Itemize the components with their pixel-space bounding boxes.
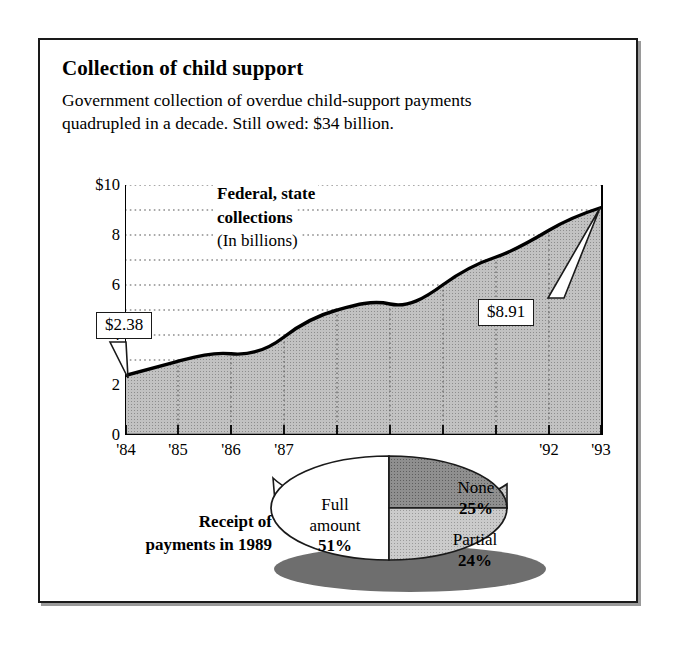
subtitle-line-1: Government collection of overdue child-s… [62,90,472,110]
pie-label-full-line-2: amount [292,516,378,537]
chart-title-units: (In billions) [214,229,318,253]
pie-label-partial-line-1: Partial [432,530,518,551]
pie-label-partial-pct: 24% [432,551,518,572]
figure-title: Collection of child support [62,56,303,81]
y-tick-6: 6 [80,277,120,294]
pie-label-full-amount: Full amount 51% [292,495,378,557]
pie-caption: Receipt of payments in 1989 [112,510,272,556]
x-tick-85: '85 [157,440,199,460]
subtitle-line-2: quadrupled in a decade. Still owed: $34 … [62,112,602,135]
pie-label-none: None 25% [440,478,512,519]
figure-subtitle: Government collection of overdue child-s… [62,89,602,135]
x-tick-93: '93 [580,440,622,460]
y-tick-10: $10 [80,177,120,194]
y-axis-labels: $10 8 6 4 2 0 [76,185,120,435]
pie-label-full-line-1: Full [292,495,378,516]
pie-label-partial: Partial 24% [432,530,518,571]
pie-label-none-pct: 25% [440,499,512,520]
pie-caption-line-2: payments in 1989 [112,533,272,556]
chart-inner-title: Federal, state collections (In billions) [214,182,318,253]
x-tick-84: '84 [105,440,147,460]
y-tick-8: 8 [80,227,120,244]
chart-title-line-1: Federal, state [214,182,318,206]
x-tick-86: '86 [210,440,252,460]
figure-frame: Collection of child support Government c… [38,38,638,603]
callout-start-value: $2.38 [96,312,152,339]
pie-label-full-pct: 51% [292,536,378,557]
chart-title-line-2: collections [214,206,318,230]
callout-end-value: $8.91 [478,299,534,326]
pie-label-none-line-1: None [440,478,512,499]
y-tick-2: 2 [80,377,120,394]
pie-caption-line-1: Receipt of [112,510,272,533]
